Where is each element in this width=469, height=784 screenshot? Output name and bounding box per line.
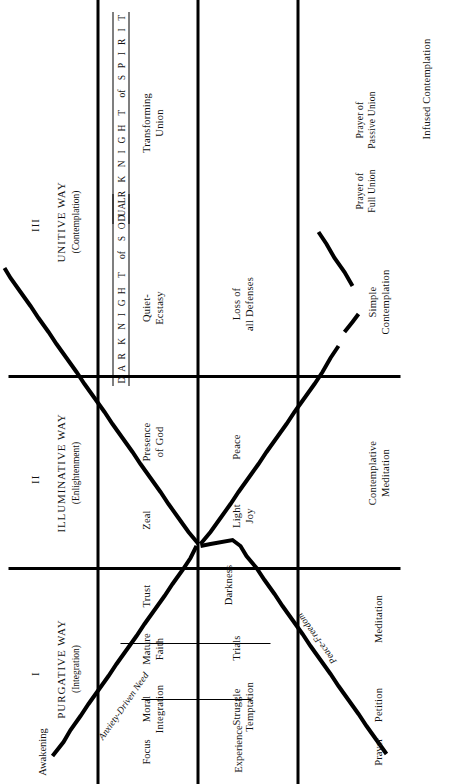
diagram-stage: I PURGATIVE WAY (Integration) II ILLUMIN… bbox=[0, 0, 469, 784]
band-spirit-letter-7: H bbox=[116, 122, 126, 134]
band-soul-letter-4: N bbox=[116, 320, 126, 332]
focus-cell-zeal: Zeal bbox=[140, 492, 153, 548]
arm-upper-right bbox=[4, 268, 198, 544]
arm-infused-step bbox=[318, 232, 352, 286]
experience-cell-darkness: Darkness bbox=[222, 552, 235, 618]
prayer-cell-simple-contemplation: Simple Contemplation bbox=[366, 252, 392, 352]
band-soul-letter-1: A bbox=[116, 362, 126, 374]
band-soul-letter-6: G bbox=[116, 297, 126, 309]
band-spirit-connector: of bbox=[116, 84, 126, 104]
diagram-rotation-wrapper: I PURGATIVE WAY (Integration) II ILLUMIN… bbox=[0, 0, 469, 784]
band-soul-letter-7: H bbox=[116, 285, 126, 297]
stage-subtitle-1: (Integration) bbox=[70, 604, 80, 734]
band-spirit-tail-5: T bbox=[116, 12, 126, 24]
band-spirit-letter-2: R bbox=[116, 188, 126, 200]
focus-cell-presence-of-god: Presence of God bbox=[140, 404, 166, 480]
stage-name-1: PURGATIVE WAY bbox=[54, 604, 66, 734]
band-spirit-tail-3: R bbox=[116, 36, 126, 48]
band-spirit-tail-1: P bbox=[116, 60, 126, 72]
band-spirit-tail-0: S bbox=[116, 72, 126, 84]
stage-numeral-2: II bbox=[28, 475, 40, 484]
band-soul-letter-5: I bbox=[116, 309, 126, 321]
arm-passive-union-step bbox=[344, 314, 358, 332]
stage-name-2: ILLUMINATIVE WAY bbox=[54, 400, 66, 546]
experience-cell-loss-of-defenses: Loss of all Defenses bbox=[230, 260, 256, 348]
band-spirit-letter-6: G bbox=[116, 134, 126, 146]
band-spirit-letter-0: D bbox=[116, 212, 126, 224]
band-soul-letter-3: K bbox=[116, 332, 126, 350]
stage-numeral-1: I bbox=[28, 671, 40, 676]
band-spirit-tail-4: I bbox=[116, 24, 126, 36]
prayer-cell-contemplative-meditation: Contemplative Meditation bbox=[366, 420, 392, 526]
arm-lower-right bbox=[200, 346, 338, 544]
band-soul-letter-0: D bbox=[116, 374, 126, 386]
prayer-cell-prayer-of-full-union: Prayer of Full Union bbox=[354, 154, 377, 228]
stage-numeral-3: III bbox=[28, 218, 40, 232]
band-spirit-letter-8: T bbox=[116, 104, 126, 122]
experience-cell-light-joy: Light Joy bbox=[230, 488, 256, 544]
stage-subtitle-2: (Enlightenment) bbox=[70, 400, 80, 546]
stage-subtitle-3: (Contemplation) bbox=[70, 152, 80, 292]
band-spirit-letter-1: A bbox=[116, 200, 126, 212]
prayer-cell-infused-contemplation: Infused Contemplation bbox=[420, 14, 433, 164]
diagram-canvas: I PURGATIVE WAY (Integration) II ILLUMIN… bbox=[0, 0, 469, 784]
experience-cell-trials: Trials bbox=[230, 616, 243, 680]
prayer-cell-petition: Petition bbox=[372, 666, 385, 744]
band-soul-letter-8: T bbox=[116, 265, 126, 285]
band-soul-letter-2: R bbox=[116, 351, 126, 363]
band-soul-connector: of bbox=[116, 245, 126, 265]
band-spirit-letter-3: K bbox=[116, 170, 126, 188]
experience-cell-peace: Peace bbox=[230, 416, 243, 478]
focus-cell-trust: Trust bbox=[140, 566, 153, 626]
band-spirit-letter-4: N bbox=[116, 158, 126, 170]
band-spirit-tail-2: I bbox=[116, 48, 126, 60]
stage-name-3: UNITIVE WAY bbox=[54, 152, 66, 292]
row-label-awakening: Awakening bbox=[36, 722, 47, 782]
band-soul-tail-0: S bbox=[116, 232, 126, 245]
band-dark-night-of-spirit: D A R K N I G H T of S P I R I T bbox=[112, 12, 129, 224]
prayer-cell-prayer-of-passive-union: Prayer of Passive Union bbox=[354, 78, 377, 162]
prayer-cell-meditation: Meditation bbox=[372, 578, 385, 660]
focus-cell-transforming-union: Transforming Union bbox=[140, 70, 166, 176]
band-spirit-letter-5: I bbox=[116, 146, 126, 158]
focus-cell-quiet-ecstasy: Quiet- Ecstasy bbox=[140, 272, 166, 344]
